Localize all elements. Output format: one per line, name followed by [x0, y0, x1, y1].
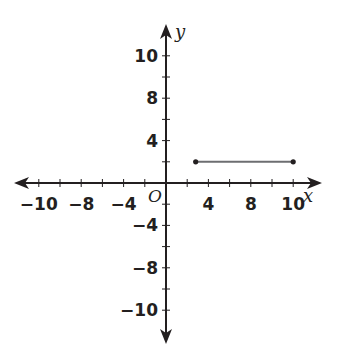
- y-tick-label: −4: [132, 215, 158, 235]
- y-tick-label: 8: [146, 88, 158, 108]
- x-axis: −10−8−44810 x: [14, 177, 322, 214]
- origin-label: O: [148, 186, 162, 206]
- y-axis-label: y: [174, 21, 186, 42]
- x-tick-label: 10: [281, 194, 305, 214]
- plotted-segments: [193, 159, 296, 164]
- coordinate-plane: −10−8−44810 x 1084−4−8−10 y O: [0, 0, 337, 353]
- x-tick-label: −8: [68, 194, 94, 214]
- y-tick-label: −10: [120, 300, 158, 320]
- y-tick-label: 4: [146, 131, 158, 151]
- x-tick-label: 8: [245, 194, 257, 214]
- y-tick-label: −8: [132, 258, 158, 278]
- x-tick-label: −10: [20, 194, 58, 214]
- endpoint-dot: [291, 159, 296, 164]
- y-tick-label: 10: [134, 46, 158, 66]
- x-axis-label: x: [303, 185, 313, 206]
- x-tick-label: −4: [111, 194, 137, 214]
- x-tick-label: 4: [202, 194, 214, 214]
- endpoint-dot: [193, 159, 198, 164]
